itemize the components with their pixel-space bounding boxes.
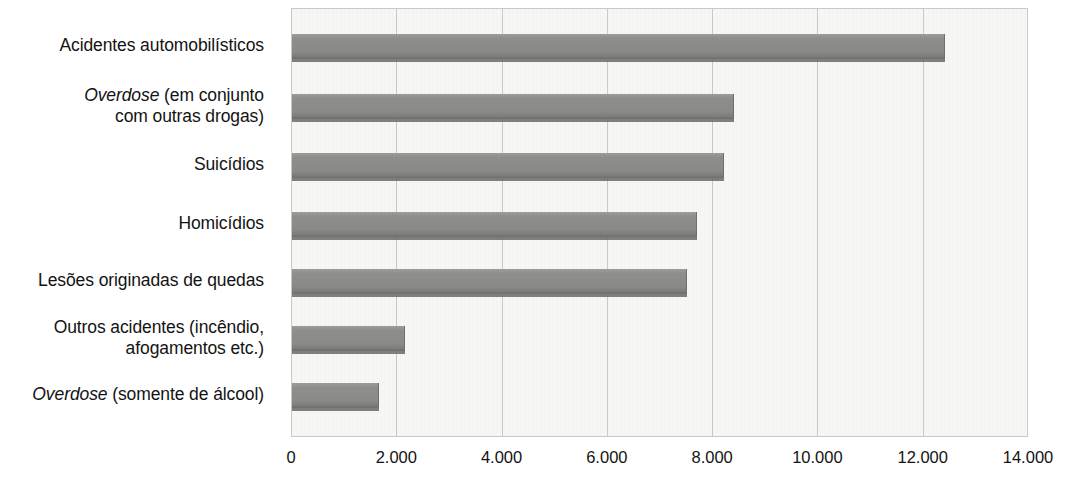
bar-overdose-somente-alcool [292,383,379,408]
x-tick-0: 0 [286,447,295,467]
x-axis-tick-labels: 02.0004.0006.0008.00010.00012.00014.000 [0,447,1066,475]
category-label-outros-acidentes: Outros acidentes (incêndio,afogamentos e… [0,317,278,359]
bar-lesoes-de-quedas [292,269,687,294]
x-tick-6000: 6.000 [586,447,627,467]
x-tick-10000: 10.000 [792,447,842,467]
x-tick-4000: 4.000 [481,447,522,467]
category-label-homicidios: Homicídios [0,213,278,234]
x-tick-2000: 2.000 [376,447,417,467]
bar-suicidios [292,153,724,178]
bar-acidentes-automobilisticos [292,34,945,59]
label-text-run: Lesões originadas de quedas [38,270,264,290]
label-text-run: com outras drogas) [115,106,264,126]
label-text-run: (somente de álcool) [107,384,264,404]
label-text-run: Acidentes automobilísticos [59,35,264,55]
gridline-8000 [712,9,713,436]
plot-area [291,8,1028,437]
label-text-run: afogamentos etc.) [126,338,264,358]
bar-outros-acidentes [292,326,405,351]
label-text-run: Outros acidentes (incêndio, [54,317,264,337]
gridline-12000 [923,9,924,436]
category-label-overdose-com-outras-drogas: Overdose (em conjuntocom outras drogas) [0,85,278,127]
bar-chart: Acidentes automobilísticosOverdose (em c… [0,0,1066,490]
category-label-lesoes-de-quedas: Lesões originadas de quedas [0,270,278,291]
x-tick-14000: 14.000 [1003,447,1053,467]
category-label-suicidios: Suicídios [0,154,278,175]
category-axis-labels: Acidentes automobilísticosOverdose (em c… [0,8,278,437]
bar-overdose-com-outras-drogas [292,94,734,119]
label-text-run: (em conjunto [159,85,264,105]
label-text-run: Suicídios [194,154,264,174]
x-tick-8000: 8.000 [691,447,732,467]
category-label-overdose-somente-alcool: Overdose (somente de álcool) [0,384,278,405]
bar-homicidios [292,212,697,237]
category-label-acidentes-automobilisticos: Acidentes automobilísticos [0,35,278,56]
label-text-run: Homicídios [178,213,264,233]
gridline-10000 [817,9,818,436]
label-text-run: Overdose [84,85,159,105]
x-tick-12000: 12.000 [897,447,947,467]
label-text-run: Overdose [32,384,107,404]
